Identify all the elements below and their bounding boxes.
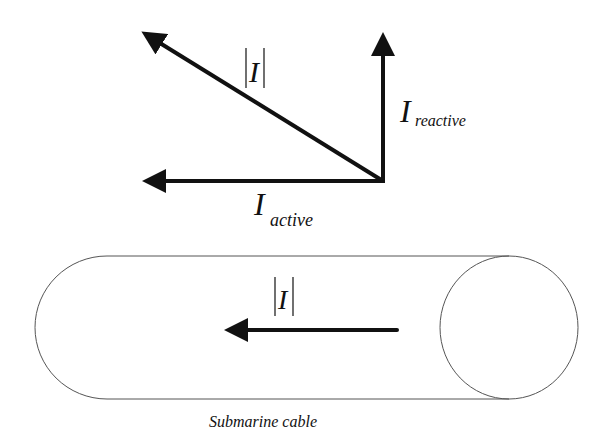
magnitude-label: I	[246, 48, 264, 88]
cable-caption: Submarine cable	[209, 413, 317, 430]
svg-text:active: active	[270, 210, 313, 230]
svg-text:I: I	[253, 186, 266, 222]
reactive-label: I reactive	[399, 93, 466, 129]
svg-text:I: I	[399, 93, 412, 129]
svg-text:I: I	[248, 55, 261, 88]
active-label: I active	[253, 186, 313, 230]
cable-body	[35, 256, 509, 399]
cable-current-label: I	[275, 277, 293, 316]
diagram-canvas: I I reactive I active I Submarine cable	[0, 0, 613, 433]
submarine-cable: I Submarine cable	[35, 256, 578, 430]
magnitude-arrow	[155, 40, 383, 181]
phasor-diagram: I I reactive I active	[155, 40, 466, 230]
cable-end-circle	[440, 256, 578, 399]
svg-text:I: I	[277, 284, 289, 315]
svg-text:reactive: reactive	[415, 112, 466, 129]
